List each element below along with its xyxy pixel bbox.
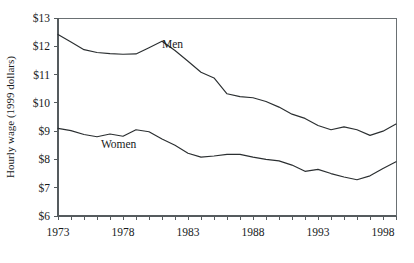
hourly-wage-line-chart: $13$12$11$10$9$8$7$6 1973197819831988199…: [0, 0, 414, 263]
x-tick-label: 1973: [47, 226, 70, 238]
y-axis-title: Hourly wage (1999 dollars): [4, 56, 17, 178]
series-line-women: [58, 128, 396, 179]
x-axis-tick-labels: 197319781983198819931998: [47, 226, 395, 238]
y-tick-label: $13: [33, 12, 51, 24]
chart-container: $13$12$11$10$9$8$7$6 1973197819831988199…: [0, 0, 414, 263]
y-tick-label: $7: [39, 182, 51, 194]
data-series-group: [58, 34, 396, 179]
x-tick-label: 1993: [307, 226, 330, 238]
series-inline-labels: MenWomen: [101, 38, 183, 150]
y-tick-label: $6: [39, 210, 51, 222]
y-tick-label: $9: [39, 125, 51, 137]
x-axis-ticks: [58, 216, 396, 220]
y-tick-label: $11: [33, 69, 50, 81]
series-label-women: Women: [101, 138, 137, 150]
x-tick-label: 1988: [242, 226, 265, 238]
y-axis-ticks: [54, 18, 58, 216]
y-axis-tick-labels: $13$12$11$10$9$8$7$6: [33, 12, 51, 222]
x-tick-label: 1983: [177, 226, 200, 238]
x-tick-label: 1998: [372, 226, 395, 238]
y-tick-label: $8: [39, 153, 51, 165]
series-label-men: Men: [162, 38, 183, 50]
y-tick-label: $10: [33, 97, 51, 109]
x-tick-label: 1978: [112, 226, 135, 238]
y-tick-label: $12: [33, 40, 51, 52]
series-line-men: [58, 34, 396, 135]
plot-frame: [58, 18, 396, 216]
